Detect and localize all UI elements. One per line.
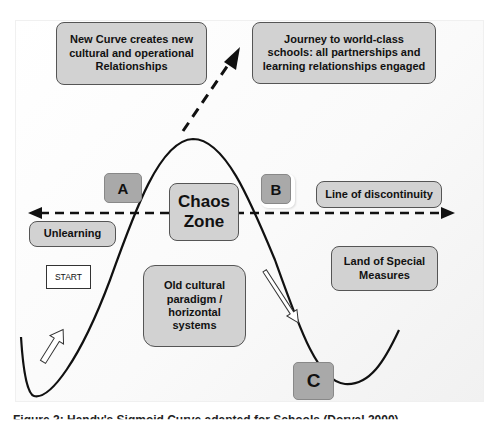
marker-c: C	[293, 362, 334, 400]
old-paradigm-box: Old cultural paradigm / horizontal syste…	[143, 265, 246, 347]
unlearning-label: Unlearning	[44, 227, 101, 240]
chaos-zone-line2: Zone	[184, 212, 225, 232]
marker-b: B	[261, 174, 291, 204]
land-of-special-measures-label: Land of Special Measures	[340, 255, 429, 282]
line-of-discontinuity-box: Line of discontinuity	[316, 181, 442, 208]
new-curve-box: New Curve creates new cultural and opera…	[56, 22, 207, 85]
new-curve-label: New Curve creates new cultural and opera…	[63, 33, 200, 73]
start-label: START	[55, 272, 82, 282]
arrow-right-icon	[441, 207, 455, 219]
line-of-discontinuity-label: Line of discontinuity	[325, 188, 433, 201]
hollow-arrow-up-icon	[36, 325, 70, 366]
unlearning-box: Unlearning	[29, 221, 116, 247]
journey-label: Journey to world-class schools: all part…	[261, 33, 427, 73]
journey-box: Journey to world-class schools: all part…	[252, 22, 436, 84]
old-paradigm-label: Old cultural paradigm / horizontal syste…	[158, 279, 231, 333]
start-box: START	[46, 265, 91, 289]
marker-a: A	[104, 173, 142, 203]
arrow-left-icon	[28, 207, 42, 219]
chaos-zone-box: Chaos Zone	[169, 183, 239, 241]
chaos-zone-line1: Chaos	[178, 192, 230, 212]
land-of-special-measures-box: Land of Special Measures	[331, 246, 438, 291]
